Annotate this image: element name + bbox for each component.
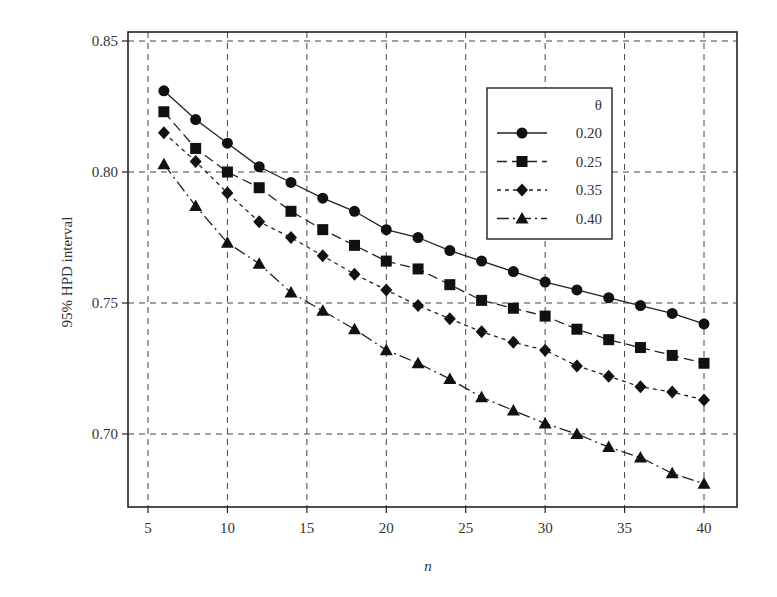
x-tick-label: 15 <box>299 520 314 536</box>
legend-label: 0.40 <box>576 211 602 227</box>
legend-label: 0.20 <box>576 125 602 141</box>
y-tick-label: 0.70 <box>92 426 118 442</box>
series-0.25 <box>158 106 709 369</box>
legend-title: θ <box>595 97 602 113</box>
y-tick-label: 0.75 <box>92 295 118 311</box>
data-series <box>157 85 710 489</box>
series-0.40 <box>157 158 710 489</box>
axis-ticks: 5101520253035400.700.750.800.85 <box>92 33 712 536</box>
x-tick-label: 40 <box>697 520 712 536</box>
legend: θ0.200.250.350.40 <box>487 88 612 239</box>
x-tick-label: 35 <box>617 520 632 536</box>
x-tick-label: 25 <box>458 520 473 536</box>
y-tick-label: 0.80 <box>92 164 118 180</box>
y-tick-label: 0.85 <box>92 33 118 49</box>
legend-label: 0.35 <box>576 182 602 198</box>
line-chart: 5101520253035400.700.750.800.85 θ0.200.2… <box>0 0 777 597</box>
x-tick-label: 30 <box>538 520 553 536</box>
x-tick-label: 10 <box>220 520 235 536</box>
y-axis-label: 95% HPD interval <box>59 217 75 328</box>
series-0.20 <box>158 85 709 329</box>
x-tick-label: 5 <box>144 520 152 536</box>
legend-label: 0.25 <box>576 154 602 170</box>
series-0.35 <box>158 126 710 406</box>
plot-frame <box>128 32 737 507</box>
x-axis-label: n <box>424 558 432 574</box>
grid-lines <box>128 32 737 507</box>
x-tick-label: 20 <box>379 520 394 536</box>
